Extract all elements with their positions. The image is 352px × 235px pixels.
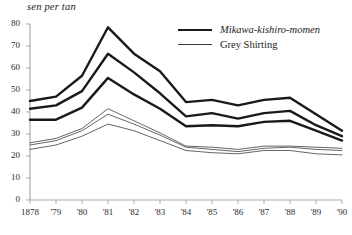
y-axis-tick-label: 20 — [4, 150, 20, 160]
chart-legend: Mikawa-kishiro-momen Grey Shirting — [178, 22, 320, 52]
legend-item-grey-shirting: Grey Shirting — [178, 37, 320, 52]
y-axis-tick-label: 0 — [4, 194, 20, 204]
y-axis-tick-label: 30 — [4, 128, 20, 138]
legend-swatch-thick-icon — [178, 29, 212, 31]
y-axis-tick-label: 10 — [4, 172, 20, 182]
y-axis-tick-label: 70 — [4, 40, 20, 50]
series-line — [30, 78, 342, 141]
y-axis-tick-label: 40 — [4, 106, 20, 116]
x-axis-tick-label: '90 — [327, 207, 352, 217]
legend-item-mikawa: Mikawa-kishiro-momen — [178, 22, 320, 37]
y-axis-tick-label: 60 — [4, 62, 20, 72]
chart-figure: sen per tan Mikawa-kishiro-momen Grey Sh… — [0, 0, 352, 235]
y-axis-tick-label: 80 — [4, 18, 20, 28]
legend-label-grey-shirting: Grey Shirting — [220, 39, 277, 50]
legend-swatch-thin-icon — [178, 44, 212, 45]
series-line — [30, 124, 342, 155]
y-axis-tick-label: 50 — [4, 84, 20, 94]
legend-label-mikawa: Mikawa-kishiro-momen — [220, 24, 320, 35]
